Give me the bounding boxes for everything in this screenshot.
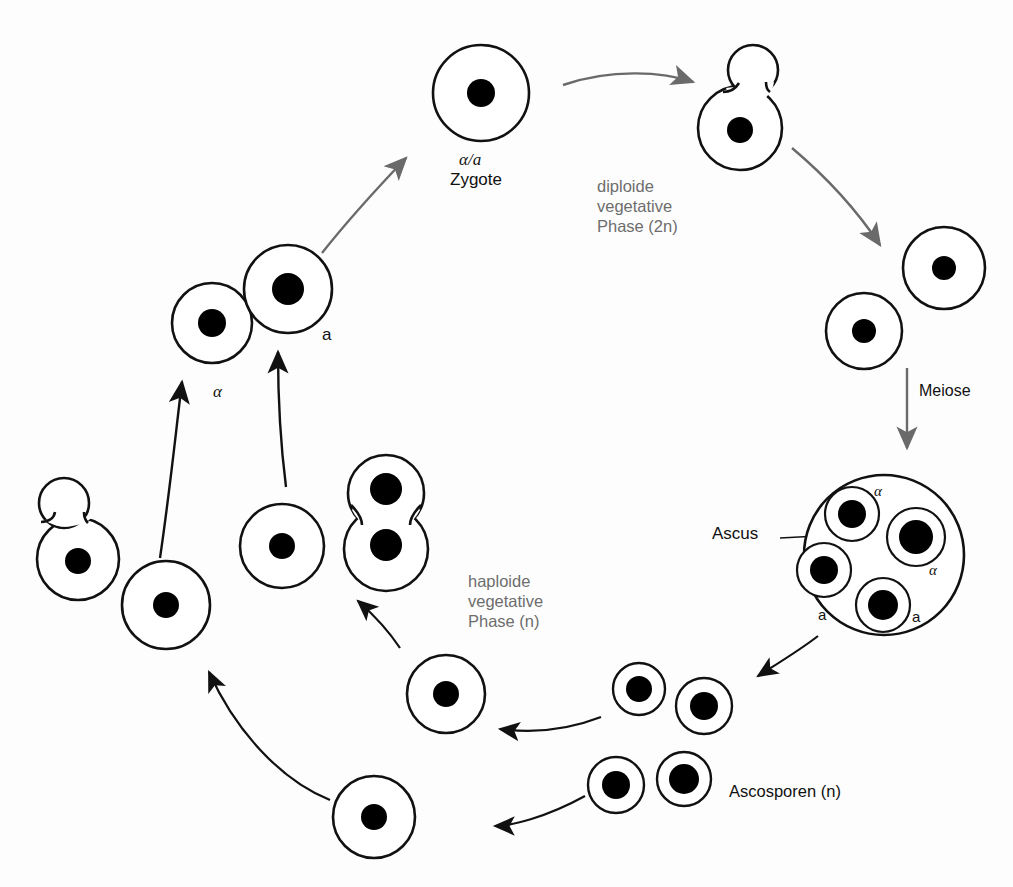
cell-ascospore-free-3: [588, 757, 644, 813]
zygote-name-label: Zygote: [450, 170, 502, 191]
ascus-spore-a-2-label: a: [912, 608, 920, 626]
cell-diploid-daughter-lower: [826, 293, 902, 369]
arrow-haploid-up-left: [209, 672, 330, 800]
cell-alpha-mating: [172, 283, 252, 363]
arrow-to-dividing-cell: [358, 601, 400, 648]
yeast-life-cycle-diagram: α/a Zygote diploide vegetative Phase (2n…: [0, 0, 1013, 887]
arrow-a-up: [278, 352, 286, 487]
ascus-spore-alpha-right: [887, 508, 945, 566]
cell-ascospore-free-1: [613, 663, 665, 715]
diagram-canvas: [0, 0, 1013, 887]
ascospores-label: Ascosporen (n): [729, 781, 841, 801]
cell-haploid-dividing: [344, 455, 428, 591]
cell-zygote: [433, 45, 529, 141]
ascus-spore-a-left: [797, 543, 851, 597]
a-cell-label: a: [322, 325, 331, 346]
arrow-mating-to-zygote: [322, 158, 406, 253]
cell-ascospore-free-2: [676, 678, 732, 734]
ascus-spore-alpha-top: [825, 487, 879, 541]
meiose-label: Meiose: [919, 381, 971, 401]
ascus-spore-alpha-2-label: α: [929, 561, 937, 579]
cell-diploid-daughter-upper: [903, 227, 985, 309]
alpha-cell-label: α: [213, 382, 222, 403]
diploid-phase-label: diploide vegetative Phase (2n): [597, 176, 678, 236]
arrow-ascus-to-spores: [758, 636, 818, 676]
haploid-phase-label: haploide vegetative Phase (n): [468, 571, 543, 631]
cell-diploid-budding: [698, 45, 782, 170]
cell-ascospore-free-4: [657, 752, 711, 806]
arrow-alpha-up: [160, 382, 182, 558]
cell-a-mating: [244, 245, 332, 333]
cell-haploid-mid-right: [407, 655, 485, 733]
ascus-spore-a-bottom: [856, 578, 910, 632]
arrow-zygote-to-budding: [563, 73, 693, 85]
cell-haploid-budding-left: [37, 478, 119, 600]
cell-haploid-left: [122, 561, 210, 649]
cell-haploid-lower-left: [333, 776, 415, 858]
zygote-symbol-label: α/a: [459, 150, 481, 171]
arrow-bottom-left: [500, 717, 601, 731]
cell-haploid-center: [240, 504, 324, 588]
arrow-budding-to-daughters: [792, 148, 880, 245]
ascus-spore-alpha-1-label: α: [874, 482, 882, 500]
arrow-spores-to-haploid: [495, 796, 585, 826]
ascus-spore-a-1-label: a: [818, 606, 826, 624]
ascus-label: Ascus: [712, 524, 758, 545]
